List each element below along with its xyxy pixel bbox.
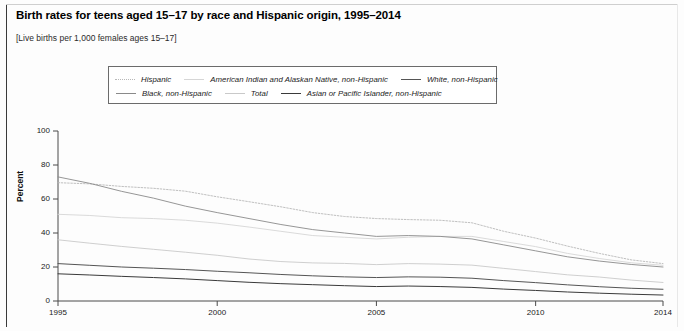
series-line bbox=[58, 177, 663, 267]
x-axis-tick-label: 2005 bbox=[356, 308, 396, 317]
figure-page: Birth rates for teens aged 15–17 by race… bbox=[0, 0, 684, 331]
x-axis-tick-label: 2010 bbox=[516, 308, 556, 317]
x-axis-tick-label: 2014 bbox=[643, 308, 683, 317]
series-line bbox=[58, 264, 663, 290]
y-axis-tick-label: 60 bbox=[24, 194, 50, 203]
x-axis-tick-label: 1995 bbox=[38, 308, 78, 317]
y-axis-tick-label: 40 bbox=[24, 228, 50, 237]
x-axis-tick-label: 2000 bbox=[197, 308, 237, 317]
y-axis-tick-label: 0 bbox=[24, 296, 50, 305]
series-line bbox=[58, 183, 663, 264]
y-axis-tick-label: 80 bbox=[24, 160, 50, 169]
y-axis-tick-label: 20 bbox=[24, 262, 50, 271]
y-axis-tick-label: 100 bbox=[24, 126, 50, 135]
series-line bbox=[58, 240, 663, 283]
line-chart-plot bbox=[0, 0, 684, 331]
